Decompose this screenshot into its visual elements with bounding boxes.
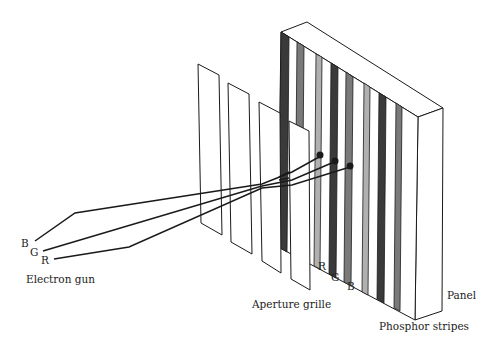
- aperture-grille-diagram: B G R Electron gun Aperture grille R G B…: [0, 0, 495, 346]
- dot-b: [317, 152, 324, 159]
- grille-plate-4: [289, 121, 310, 290]
- stripe-mid: [344, 72, 353, 286]
- panel-side-face: [415, 108, 443, 320]
- panel-label: Panel: [447, 289, 477, 301]
- stripe-label-r: R: [318, 260, 327, 272]
- stripe-dark: [377, 93, 386, 303]
- electron-gun-label: Electron gun: [26, 273, 95, 285]
- dot-g: [332, 158, 339, 165]
- grille-plate-2: [228, 83, 252, 254]
- stripe-label-g: G: [331, 271, 339, 283]
- beam-label-g: G: [30, 246, 38, 258]
- aperture-grille-label: Aperture grille: [251, 298, 331, 310]
- phosphor-stripes-label: Phosphor stripes: [379, 320, 469, 332]
- stripe-label-b: B: [347, 280, 355, 292]
- grille-plate-1: [198, 64, 222, 235]
- beam-label-b: B: [21, 237, 29, 249]
- beam-label-r: R: [41, 254, 50, 266]
- dot-r: [347, 163, 354, 170]
